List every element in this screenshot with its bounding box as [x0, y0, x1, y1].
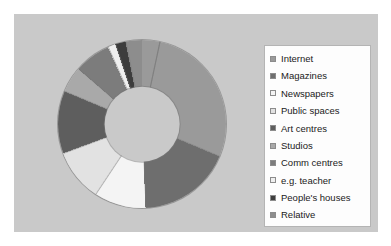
legend-item[interactable]: Internet	[270, 50, 370, 67]
legend-item-label: Relative	[281, 210, 315, 220]
legend-item[interactable]: Public spaces	[270, 102, 370, 119]
legend-item-label: Comm centres	[281, 158, 343, 168]
legend-swatch-icon	[270, 195, 276, 201]
legend-item-label: Internet	[281, 54, 313, 64]
chart-legend: InternetMagazinesNewspapersPublic spaces…	[264, 45, 371, 227]
legend-swatch-icon	[270, 108, 276, 114]
legend-swatch-icon	[270, 143, 276, 149]
chart-screenshot: InternetMagazinesNewspapersPublic spaces…	[0, 0, 391, 246]
legend-item[interactable]: Comm centres	[270, 154, 370, 171]
legend-item[interactable]: People's houses	[270, 189, 370, 206]
doughnut-chart	[58, 40, 226, 208]
doughnut-center-hole	[105, 87, 180, 162]
legend-item-label: Newspapers	[281, 89, 334, 99]
legend-item-label: Public spaces	[281, 106, 340, 116]
legend-item-label: Magazines	[281, 71, 327, 81]
plot-area: InternetMagazinesNewspapersPublic spaces…	[14, 14, 378, 232]
legend-swatch-icon	[270, 125, 276, 131]
legend-item[interactable]: Relative	[270, 207, 370, 224]
legend-item[interactable]: e.g. teacher	[270, 172, 370, 189]
legend-swatch-icon	[270, 212, 276, 218]
legend-item-label: Art centres	[281, 124, 327, 134]
legend-item-label: People's houses	[281, 193, 350, 203]
legend-item-label: e.g. teacher	[281, 176, 331, 186]
legend-item[interactable]: Studios	[270, 137, 370, 154]
legend-swatch-icon	[270, 160, 276, 166]
legend-item[interactable]: Newspapers	[270, 85, 370, 102]
legend-swatch-icon	[270, 90, 276, 96]
legend-item[interactable]: Magazines	[270, 67, 370, 84]
legend-swatch-icon	[270, 177, 276, 183]
legend-item-label: Studios	[281, 141, 313, 151]
legend-swatch-icon	[270, 56, 276, 62]
legend-item[interactable]: Art centres	[270, 120, 370, 137]
legend-swatch-icon	[270, 73, 276, 79]
